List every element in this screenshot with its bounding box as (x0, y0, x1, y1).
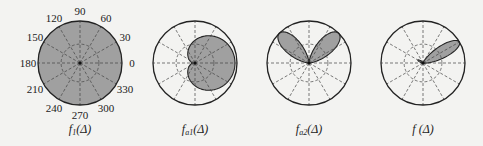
angle-grid-line (423, 63, 459, 84)
angle-label-0: 0 (129, 57, 135, 69)
panel-caption: fa2(Δ) (296, 122, 322, 137)
angle-label-120: 120 (46, 12, 63, 24)
angle-label-270: 270 (72, 109, 89, 121)
angle-label-330: 330 (117, 83, 134, 95)
origin-dot (421, 61, 424, 64)
angle-grid-line (288, 63, 309, 99)
polar-panel-4: f (Δ) (381, 21, 465, 136)
origin-dot (193, 61, 196, 64)
polar-panel-1: 0306090120150180210240270300330f1(Δ) (20, 5, 136, 137)
origin-dot (307, 61, 310, 64)
angle-label-210: 210 (27, 83, 44, 95)
angle-grid-line (309, 63, 345, 84)
angle-label-240: 240 (46, 102, 63, 114)
polar-pattern-figure: 0306090120150180210240270300330f1(Δ)fa1(… (0, 0, 483, 146)
angle-label-60: 60 (101, 12, 113, 24)
origin-dot (78, 61, 81, 64)
polar-panel-3: fa2(Δ) (267, 21, 351, 137)
panel-caption: fa1(Δ) (182, 122, 208, 137)
angle-label-150: 150 (27, 31, 44, 43)
angle-label-180: 180 (20, 57, 37, 69)
angle-label-300: 300 (98, 102, 115, 114)
angle-label-30: 30 (120, 31, 132, 43)
angle-grid-line (402, 27, 423, 63)
panel-caption: f1(Δ) (69, 122, 91, 137)
polar-panel-2: fa1(Δ) (153, 21, 237, 137)
angle-label-90: 90 (75, 5, 87, 17)
pattern-fill (418, 40, 460, 63)
panel-caption: f (Δ) (412, 122, 433, 136)
angle-grid-line (402, 63, 423, 99)
